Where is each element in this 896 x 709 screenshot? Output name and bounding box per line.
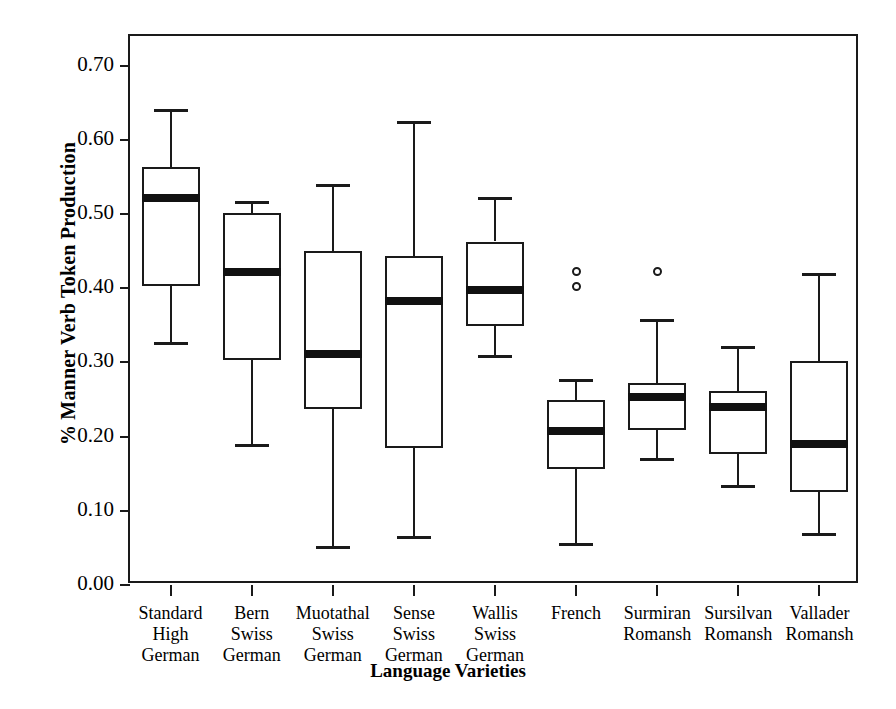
- whisker-upper-line: [656, 319, 658, 383]
- iqr-rect: [466, 242, 524, 327]
- boxplot-figure: % Manner Verb Token Production 0.000.100…: [0, 0, 896, 709]
- y-tick-label: 0.30: [34, 348, 114, 373]
- iqr-rect: [628, 383, 686, 430]
- whisker-lower-line: [413, 448, 415, 538]
- whisker-lower-cap: [559, 543, 593, 546]
- median-line: [466, 286, 524, 294]
- whisker-upper-cap: [640, 319, 674, 322]
- y-tick-label: 0.10: [34, 497, 114, 522]
- outlier-point: [653, 267, 662, 276]
- whisker-upper-cap: [721, 346, 755, 349]
- whisker-lower-line: [251, 360, 253, 445]
- whisker-lower-line: [575, 469, 577, 545]
- whisker-upper-line: [494, 197, 496, 242]
- x-tick-mark: [170, 585, 172, 596]
- outlier-point: [572, 282, 581, 291]
- whisker-lower-line: [494, 326, 496, 357]
- y-tick-label: 0.40: [34, 274, 114, 299]
- x-tick-mark: [413, 585, 415, 596]
- whisker-upper-line: [737, 346, 739, 391]
- y-tick-mark: [120, 287, 130, 289]
- y-tick-mark: [120, 584, 130, 586]
- x-tick-label: Vallader Romansh: [764, 603, 874, 645]
- whisker-lower-line: [818, 492, 820, 535]
- whisker-upper-cap: [802, 273, 836, 276]
- median-line: [223, 268, 281, 276]
- whisker-upper-line: [332, 184, 334, 251]
- y-tick-label: 0.60: [34, 126, 114, 151]
- whisker-lower-line: [656, 430, 658, 460]
- whisker-upper-cap: [478, 197, 512, 200]
- y-tick-label: 0.00: [34, 571, 114, 596]
- x-tick-mark: [818, 585, 820, 596]
- median-line: [304, 350, 362, 358]
- whisker-lower-line: [737, 454, 739, 487]
- outlier-point: [572, 267, 581, 276]
- whisker-upper-line: [575, 379, 577, 399]
- x-tick-mark: [737, 585, 739, 596]
- whisker-lower-cap: [640, 458, 674, 461]
- median-line: [628, 393, 686, 401]
- whisker-lower-line: [332, 409, 334, 548]
- y-tick-label: 0.20: [34, 423, 114, 448]
- whisker-lower-cap: [397, 536, 431, 539]
- whisker-upper-line: [818, 273, 820, 361]
- whisker-lower-cap: [721, 485, 755, 488]
- whisker-upper-cap: [397, 121, 431, 124]
- x-tick-mark: [575, 585, 577, 596]
- whisker-upper-line: [170, 109, 172, 168]
- median-line: [142, 194, 200, 202]
- iqr-rect: [304, 251, 362, 409]
- whisker-upper-cap: [154, 109, 188, 112]
- x-tick-mark: [656, 585, 658, 596]
- x-tick-mark: [494, 585, 496, 596]
- median-line: [385, 297, 443, 305]
- x-axis-title: Language Varieties: [0, 660, 896, 682]
- whisker-lower-cap: [316, 546, 350, 549]
- iqr-rect: [790, 361, 848, 492]
- y-tick-mark: [120, 65, 130, 67]
- x-tick-mark: [251, 585, 253, 596]
- y-tick-mark: [120, 510, 130, 512]
- y-tick-mark: [120, 361, 130, 363]
- whisker-upper-cap: [559, 379, 593, 382]
- whisker-upper-cap: [235, 201, 269, 204]
- y-tick-label: 0.70: [34, 52, 114, 77]
- whisker-upper-cap: [316, 184, 350, 187]
- iqr-rect: [385, 256, 443, 448]
- whisker-lower-line: [170, 286, 172, 344]
- whisker-lower-cap: [235, 444, 269, 447]
- whisker-upper-line: [413, 121, 415, 257]
- iqr-rect: [142, 167, 200, 286]
- median-line: [709, 403, 767, 411]
- iqr-rect: [223, 213, 281, 360]
- whisker-lower-cap: [154, 342, 188, 345]
- y-tick-mark: [120, 139, 130, 141]
- x-tick-mark: [332, 585, 334, 596]
- iqr-rect: [709, 391, 767, 455]
- y-tick-mark: [120, 213, 130, 215]
- median-line: [790, 440, 848, 448]
- whisker-lower-cap: [478, 355, 512, 358]
- y-tick-mark: [120, 436, 130, 438]
- y-tick-label: 0.50: [34, 200, 114, 225]
- whisker-lower-cap: [802, 533, 836, 536]
- plot-area: 0.000.100.200.300.400.500.600.70 Standar…: [128, 34, 858, 583]
- median-line: [547, 427, 605, 435]
